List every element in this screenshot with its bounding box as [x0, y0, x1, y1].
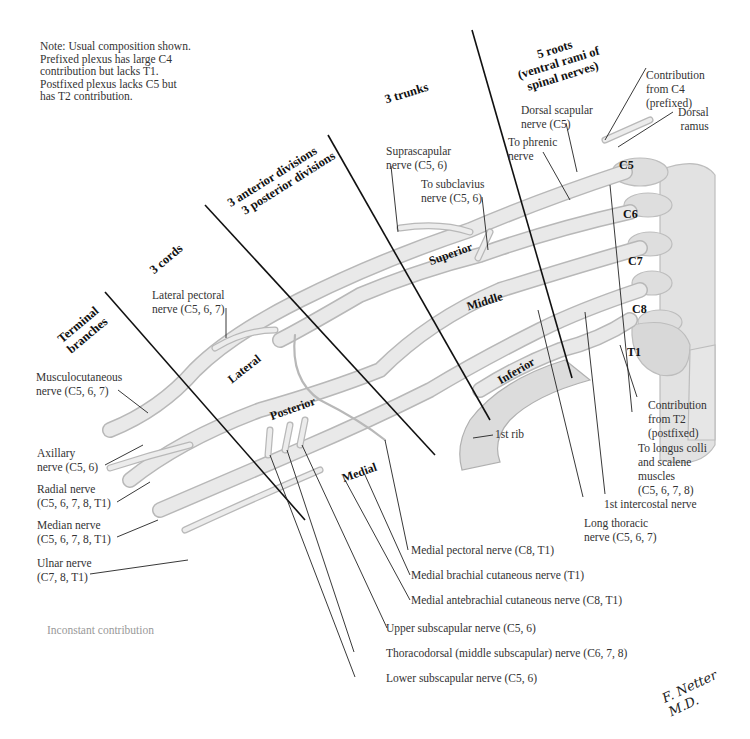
label-line: Lateral pectoral	[152, 288, 225, 302]
note-line: has T2 contribution.	[40, 90, 191, 103]
composition-note: Note: Usual composition shown. Prefixed …	[40, 40, 191, 103]
label-line: Ulnar nerve	[37, 556, 92, 570]
label-to-phrenic: To phrenic nerve	[508, 135, 557, 163]
label-contribution-c4: Contribution from C4 (prefixed)	[646, 68, 705, 110]
note-line: Note: Usual composition shown.	[40, 40, 191, 53]
label-line: Suprascapular	[386, 144, 451, 158]
label-line: ramus	[678, 119, 709, 133]
label-line: nerve (C5, 6)	[37, 460, 98, 474]
label-lateral-pectoral: Lateral pectoral nerve (C5, 6, 7)	[152, 288, 225, 316]
label-line: (C5, 6, 7, 8, T1)	[37, 496, 111, 510]
label-line: Long thoracic	[584, 516, 657, 530]
label-axillary: Axillary nerve (C5, 6)	[37, 446, 98, 474]
label-line: from T2	[648, 412, 707, 426]
label-lower-subscapular: Lower subscapular nerve (C5, 6)	[386, 671, 537, 685]
label-line: nerve (C5, 6)	[386, 158, 451, 172]
label-medial-pectoral: Medial pectoral nerve (C8, T1)	[411, 543, 554, 557]
label-contribution-t2: Contribution from T2 (postfixed)	[648, 398, 707, 440]
label-line: To subclavius	[421, 177, 484, 191]
label-line: Musculocutaneous	[36, 370, 122, 384]
label-line: muscles	[638, 469, 707, 483]
label-dorsal-scapular: Dorsal scapular nerve (C5)	[521, 103, 593, 131]
note-line: Postfixed plexus lacks C5 but	[40, 78, 191, 91]
label-line: Contribution	[646, 68, 705, 82]
label-suprascapular: Suprascapular nerve (C5, 6)	[386, 144, 451, 172]
label-line: nerve (C5)	[521, 117, 593, 131]
root-c7: C7	[628, 254, 643, 269]
label-first-rib: 1st rib	[495, 427, 524, 441]
label-to-subclavius: To subclavius nerve (C5, 6)	[421, 177, 484, 205]
label-line: (C5, 6, 7, 8)	[638, 483, 707, 497]
label-line: Dorsal	[678, 105, 709, 119]
label-median: Median nerve (C5, 6, 7, 8, T1)	[37, 518, 111, 546]
label-line: Axillary	[37, 446, 98, 460]
label-upper-subscapular: Upper subscapular nerve (C5, 6)	[386, 621, 536, 635]
label-musculocutaneous: Musculocutaneous nerve (C5, 6, 7)	[36, 370, 122, 398]
label-radial: Radial nerve (C5, 6, 7, 8, T1)	[37, 482, 111, 510]
label-line: nerve (C5, 6)	[421, 191, 484, 205]
label-line: Dorsal scapular	[521, 103, 593, 117]
root-c5: C5	[619, 158, 634, 173]
label-line: and scalene	[638, 455, 707, 469]
legend-inconstant-contribution: Inconstant contribution	[47, 624, 154, 636]
label-line: Median nerve	[37, 518, 111, 532]
label-line: To longus colli	[638, 441, 707, 455]
label-long-thoracic: Long thoracic nerve (C5, 6, 7)	[584, 516, 657, 544]
root-c6: C6	[623, 207, 638, 222]
label-ulnar: Ulnar nerve (C7, 8, T1)	[37, 556, 92, 584]
note-line: contribution but lacks T1.	[40, 65, 191, 78]
label-thoracodorsal: Thoracodorsal (middle subscapular) nerve…	[386, 646, 627, 660]
label-line: (C7, 8, T1)	[37, 570, 92, 584]
label-line: nerve (C5, 6, 7)	[36, 384, 122, 398]
label-dorsal-ramus: Dorsal ramus	[678, 105, 709, 133]
root-c8: C8	[632, 302, 647, 317]
label-first-intercostal: 1st intercostal nerve	[604, 497, 697, 511]
label-line: (postfixed)	[648, 426, 707, 440]
label-line: (C5, 6, 7, 8, T1)	[37, 532, 111, 546]
label-line: nerve	[508, 149, 557, 163]
root-t1: T1	[627, 345, 641, 360]
note-line: Prefixed plexus has large C4	[40, 53, 191, 66]
label-medial-antebrachial: Medial antebrachial cutaneous nerve (C8,…	[411, 593, 622, 607]
label-line: nerve (C5, 6, 7)	[584, 530, 657, 544]
label-line: Contribution	[648, 398, 707, 412]
label-line: from C4	[646, 82, 705, 96]
label-line: nerve (C5, 6, 7)	[152, 302, 225, 316]
first-rib	[460, 360, 590, 470]
label-medial-brachial: Medial brachial cutaneous nerve (T1)	[411, 568, 584, 582]
label-line: To phrenic	[508, 135, 557, 149]
label-line: Radial nerve	[37, 482, 111, 496]
nerves	[110, 120, 650, 530]
label-longus-colli: To longus colli and scalene muscles (C5,…	[638, 441, 707, 497]
